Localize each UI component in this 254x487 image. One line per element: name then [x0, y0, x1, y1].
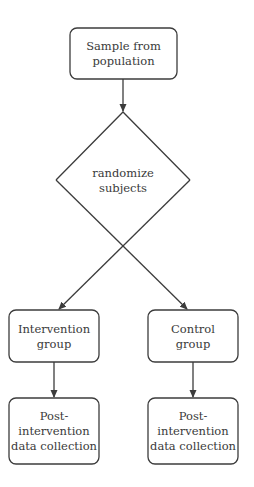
node-intervention: Intervention group [9, 310, 99, 362]
edge-randomize-to-control [56, 180, 187, 309]
node-control-box [148, 310, 238, 362]
node-control-label-line-1: Control [171, 322, 215, 336]
node-control-label-line-2: group [176, 337, 211, 351]
node-post-control-label-line-3: data collection [150, 439, 237, 453]
node-randomize-label-line-2: subjects [99, 181, 147, 195]
node-randomize: randomize subjects [56, 112, 190, 195]
node-intervention-label-line-1: Intervention [18, 322, 91, 336]
node-sample-label-line-1: Sample from [86, 39, 161, 53]
node-post-intervention: Post- intervention data collection [9, 398, 99, 464]
node-randomize-label-line-1: randomize [92, 166, 154, 180]
node-intervention-box [9, 310, 99, 362]
node-post-intervention-label-line-3: data collection [11, 439, 98, 453]
node-intervention-label-line-2: group [37, 337, 72, 351]
node-control: Control group [148, 310, 238, 362]
node-sample: Sample from population [70, 28, 177, 79]
edge-randomize-to-intervention [59, 180, 190, 309]
node-post-control-label-line-1: Post- [179, 409, 208, 423]
node-post-intervention-label-line-2: intervention [18, 424, 90, 438]
node-post-intervention-label-line-1: Post- [40, 409, 69, 423]
flowchart: Sample from population randomize subject… [0, 0, 254, 487]
node-post-control: Post- intervention data collection [148, 398, 238, 464]
node-sample-label-line-2: population [92, 54, 155, 68]
node-post-control-label-line-2: intervention [157, 424, 229, 438]
